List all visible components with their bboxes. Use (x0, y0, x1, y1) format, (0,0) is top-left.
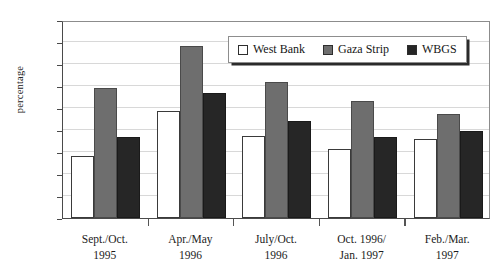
bar-west-bank (157, 111, 180, 218)
bar-west-bank (242, 136, 265, 218)
bar-wbgs (288, 121, 311, 218)
x-tick-label: Feb./Mar.1997 (401, 232, 493, 263)
bar-gaza-strip (265, 82, 288, 218)
bar-gaza-strip (437, 114, 460, 218)
bar-west-bank (71, 156, 94, 218)
x-tick-label: Oct. 1996/Jan. 1997 (316, 232, 408, 263)
x-tick-label: Apr./May1996 (144, 232, 236, 263)
legend-swatch-gaza-strip (323, 45, 333, 55)
legend-swatch-west-bank (238, 45, 248, 55)
x-tick-label: Sept./Oct.1995 (59, 232, 151, 263)
legend: West BankGaza StripWBGS (228, 36, 467, 63)
bar-wbgs (117, 137, 140, 218)
legend-item-west-bank[interactable]: West Bank (238, 42, 305, 57)
y-tick-mark (57, 219, 62, 220)
legend-label: West Bank (253, 42, 305, 57)
bar-gaza-strip (94, 88, 117, 218)
bar-group (63, 22, 149, 218)
bar-wbgs (460, 131, 483, 218)
bar-west-bank (328, 149, 351, 218)
legend-item-gaza-strip[interactable]: Gaza Strip (323, 42, 389, 57)
legend-label: WBGS (422, 42, 457, 57)
bar-gaza-strip (351, 101, 374, 218)
bar-gaza-strip (180, 46, 203, 218)
bar-wbgs (374, 137, 397, 218)
legend-label: Gaza Strip (338, 42, 389, 57)
bar-chart: percentage 051015202530354045 Sept./Oct.… (0, 0, 500, 280)
legend-swatch-wbgs (407, 45, 417, 55)
legend-item-wbgs[interactable]: WBGS (407, 42, 457, 57)
x-tick-label: July/Oct.1996 (230, 232, 322, 263)
x-axis-separator (319, 219, 320, 226)
bar-wbgs (203, 93, 226, 218)
x-axis-separator (233, 219, 234, 226)
bar-group (149, 22, 235, 218)
bar-west-bank (414, 139, 437, 218)
y-axis-title: percentage (14, 45, 25, 135)
x-axis-separator (148, 219, 149, 226)
x-axis-separator (404, 219, 405, 226)
